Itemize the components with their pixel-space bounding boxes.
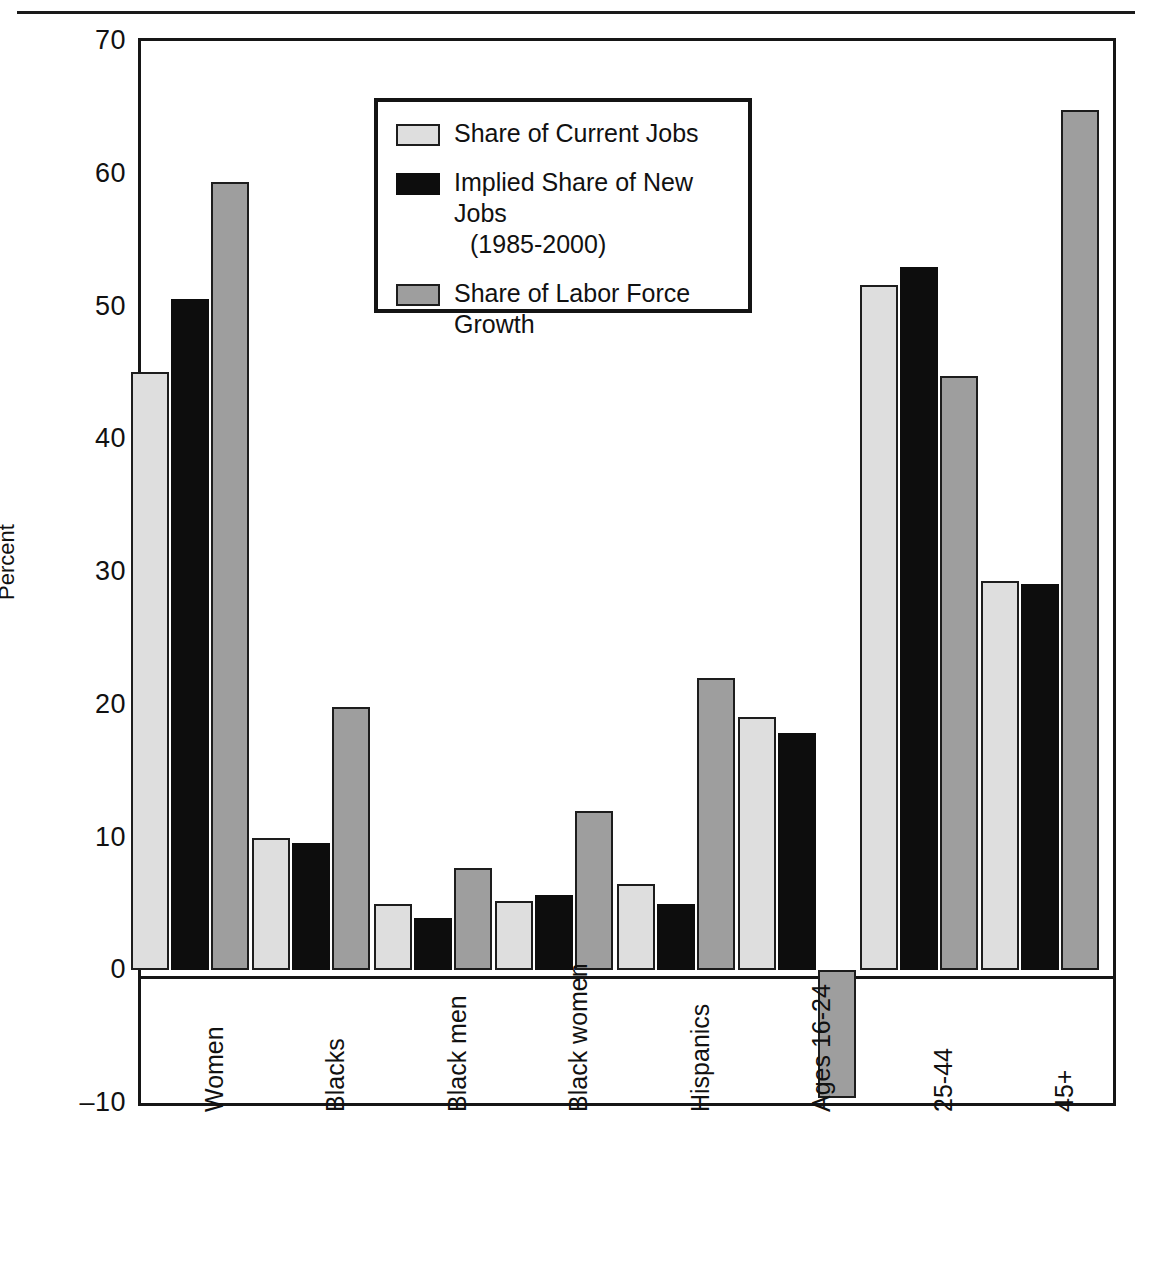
x-axis-label-hispanics: Hispanics: [686, 1004, 715, 1112]
x-axis-category-labels: WomenBlacksBlack menBlack womenHispanics…: [141, 1112, 1113, 1272]
bar-black-men-series-0: [374, 904, 412, 970]
top-divider-rule: [17, 11, 1135, 14]
legend-item-0[interactable]: Share of Current Jobs: [396, 118, 748, 149]
y-axis-label-30: 30: [0, 558, 126, 585]
legend-sublabel-1: (1985-2000): [454, 229, 748, 260]
bar-25-44-series-2: [940, 376, 978, 971]
bar-women-series-0: [131, 372, 169, 971]
bar-ages-16-24-series-0: [738, 717, 776, 971]
legend-item-2[interactable]: Share of Labor Force Growth: [396, 278, 748, 340]
bar-45--series-1: [1021, 584, 1059, 970]
bar-hispanics-series-2: [697, 678, 735, 970]
x-axis-label-ages-16-24: Ages 16-24: [807, 984, 836, 1112]
y-axis-label-20: 20: [0, 691, 126, 718]
x-axis-label-25-44: 25-44: [929, 1048, 958, 1112]
bar-black-women-series-0: [495, 901, 533, 970]
bar-hispanics-series-0: [617, 884, 655, 970]
legend-label-0: Share of Current Jobs: [454, 118, 699, 149]
y-axis-label-50: 50: [0, 293, 126, 320]
bar-ages-16-24-series-1: [778, 733, 816, 971]
bar-black-men-series-1: [414, 918, 452, 970]
x-axis-label-women: Women: [200, 1026, 229, 1112]
legend-label-1: Implied Share of New Jobs(1985-2000): [454, 167, 748, 260]
bar-blacks-series-1: [292, 843, 330, 970]
bar-black-women-series-2: [575, 811, 613, 970]
bar-women-series-1: [171, 299, 209, 971]
x-axis-label-blacks: Blacks: [321, 1038, 350, 1112]
y-axis-label-0: 0: [0, 956, 126, 983]
legend-swatch-icon-0: [396, 124, 440, 146]
x-axis-label-black-men: Black men: [443, 995, 472, 1112]
chart-legend: Share of Current JobsImplied Share of Ne…: [374, 98, 752, 313]
bar-hispanics-series-1: [657, 904, 695, 970]
bar-45--series-0: [981, 581, 1019, 970]
y-axis-label--10: –10: [0, 1089, 126, 1116]
legend-label-2: Share of Labor Force Growth: [454, 278, 748, 340]
legend-swatch-icon-2: [396, 284, 440, 306]
y-axis-label-60: 60: [0, 160, 126, 187]
x-axis-label-45-: 45+: [1050, 1070, 1079, 1112]
bar-blacks-series-2: [332, 707, 370, 970]
bar-black-men-series-2: [454, 868, 492, 970]
bar-women-series-2: [211, 182, 249, 971]
legend-item-1[interactable]: Implied Share of New Jobs(1985-2000): [396, 167, 748, 260]
legend-swatch-icon-1: [396, 173, 440, 195]
bar-25-44-series-1: [900, 267, 938, 971]
y-axis-label-40: 40: [0, 425, 126, 452]
y-axis-label-10: 10: [0, 824, 126, 851]
y-axis-label-70: 70: [0, 27, 126, 54]
bar-black-women-series-1: [535, 895, 573, 971]
bar-45--series-2: [1061, 110, 1099, 970]
bar-25-44-series-0: [860, 285, 898, 970]
x-axis-label-black-women: Black women: [564, 963, 593, 1112]
bar-blacks-series-0: [252, 838, 290, 971]
